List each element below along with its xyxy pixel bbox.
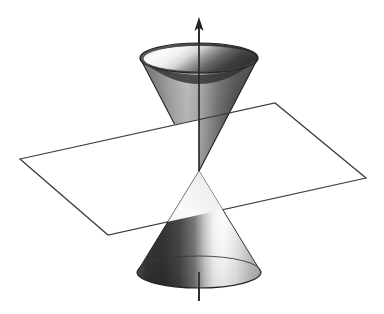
double-cone-plane-diagram — [0, 0, 384, 314]
figure-canvas — [0, 0, 384, 314]
